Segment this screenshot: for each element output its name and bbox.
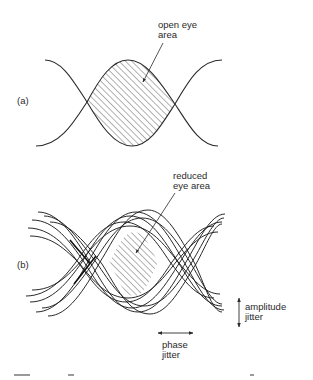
eye-diagram-figure: (a) open eye area (b) reduced eye area a… [0,0,313,380]
amplitude-jitter-label-line2: jitter [245,312,263,322]
panel-b-label: (b) [17,260,29,270]
panel-a-label: (a) [17,96,29,106]
open-eye-area [87,60,175,146]
reduced-eye-label-line2: eye area [173,181,210,191]
cropped-caption-fragment [0,374,313,380]
phase-jitter-label-line2: jitter [162,350,180,360]
panel-b-eye [26,193,239,333]
open-eye-label-line2: area [158,30,177,40]
panel-a-eye [36,43,222,146]
diagram-graphics [0,0,313,380]
reduced-eye-area [110,232,158,296]
